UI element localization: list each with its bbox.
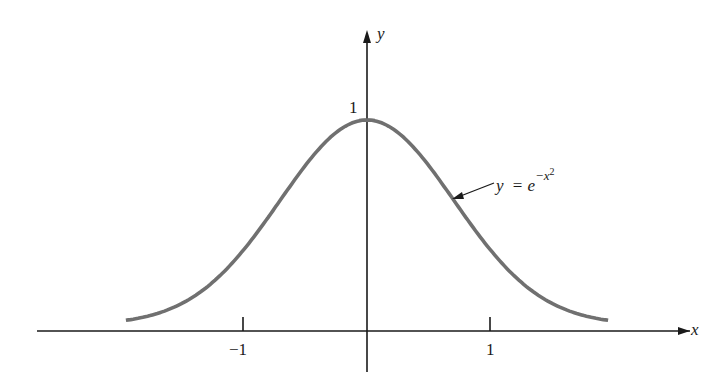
equation-label: y =e−x2 bbox=[496, 170, 554, 196]
eq-square: 2 bbox=[549, 166, 554, 177]
y-axis-arrow-icon bbox=[363, 30, 371, 43]
y-tick-label-1: 1 bbox=[349, 98, 358, 118]
y-axis-label: y bbox=[377, 24, 385, 44]
eq-e: e bbox=[527, 176, 535, 195]
annotation-arrow bbox=[458, 183, 494, 197]
chart-canvas bbox=[0, 0, 702, 387]
x-axis-label: x bbox=[691, 320, 699, 340]
eq-exponent: −x bbox=[535, 168, 550, 183]
x-axis-arrow-icon bbox=[678, 327, 690, 335]
eq-y: y bbox=[496, 176, 504, 195]
annotation-arrowhead-icon bbox=[452, 192, 464, 199]
x-tick-label-1: 1 bbox=[486, 340, 495, 360]
eq-equals: = bbox=[513, 176, 523, 195]
x-tick-label-neg1: −1 bbox=[229, 340, 247, 360]
